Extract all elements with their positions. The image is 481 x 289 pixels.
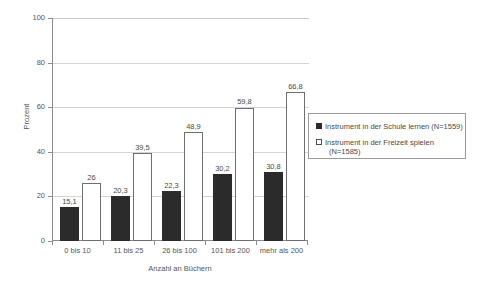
bars-layer: 15,1 26 20,3 39,5 22,3 48,9 30,2 59,8 [52,18,308,241]
bar-label-series1-cat4: 66,8 [280,83,311,91]
x-label-cat0: 0 bis 10 [49,246,106,255]
bar-label-series0-cat0: 15,1 [54,198,85,206]
bar-label-series1-cat3: 59,8 [229,98,260,106]
y-axis-title: Prozent [22,87,31,147]
y-tick-label-20: 20 [37,192,45,200]
legend-swatch-outlined-icon [316,139,322,145]
bar-series1-cat2 [184,132,203,241]
y-tick-label-100: 100 [32,14,45,22]
legend-label-series1: Instrument in der Freizeit spielen (N=15… [325,138,434,156]
legend-label-series1-line2: (N=1585) [325,147,434,156]
bar-series0-cat4 [264,172,283,241]
x-axis-title: Anzahl an Büchern [52,264,308,273]
y-tick-label-40: 40 [37,148,45,156]
x-tick-mark-3 [205,241,206,245]
bar-group-0: 15,1 26 [58,18,103,241]
x-tick-mark-4 [256,241,257,245]
bar-series1-cat3 [235,108,254,241]
x-label-cat2: 26 bis 100 [151,246,208,255]
bar-series0-cat0 [60,207,79,241]
legend-swatch-filled-icon [316,123,322,129]
bar-chart: 100 80 60 40 20 0 Prozent 15,1 26 2 [0,0,481,289]
bar-series0-cat1 [111,196,130,241]
x-axis-labels: 0 bis 10 11 bis 25 26 bis 100 101 bis 20… [52,246,308,260]
bar-label-series0-cat1: 20,3 [105,187,136,195]
bar-group-2: 22,3 48,9 [160,18,205,241]
x-label-cat4: mehr als 200 [253,246,310,255]
bar-series0-cat3 [213,174,232,241]
legend-label-series0: Instrument in der Schule lernen (N=1559) [325,122,463,131]
x-tick-mark-2 [154,241,155,245]
bar-label-series0-cat4: 30,8 [258,163,289,171]
y-tick-label-80: 80 [37,59,45,67]
y-tick-label-0: 0 [41,237,45,245]
bar-label-series1-cat1: 39,5 [127,144,158,152]
bar-series1-cat0 [82,183,101,241]
x-tick-mark-1 [103,241,104,245]
bar-label-series1-cat2: 48,9 [178,123,209,131]
legend: Instrument in der Schule lernen (N=1559)… [308,113,466,159]
bar-series1-cat4 [286,92,305,241]
x-tick-mark-5 [307,241,308,245]
bar-series1-cat1 [133,153,152,241]
legend-item-series1: Instrument in der Freizeit spielen (N=15… [316,138,434,156]
x-tick-mark-0 [52,241,53,245]
y-tick-label-60: 60 [37,103,45,111]
bar-group-4: 30,8 66,8 [262,18,307,241]
bar-series0-cat2 [162,191,181,241]
bar-label-series0-cat2: 22,3 [156,182,187,190]
legend-label-series1-line1: Instrument in der Freizeit spielen [325,138,434,147]
x-label-cat3: 101 bis 200 [202,246,259,255]
bar-group-1: 20,3 39,5 [109,18,154,241]
x-label-cat1: 11 bis 25 [100,246,157,255]
bar-group-3: 30,2 59,8 [211,18,256,241]
legend-item-series0: Instrument in der Schule lernen (N=1559) [316,122,463,131]
bar-label-series1-cat0: 26 [76,174,107,182]
bar-label-series0-cat3: 30,2 [207,165,238,173]
